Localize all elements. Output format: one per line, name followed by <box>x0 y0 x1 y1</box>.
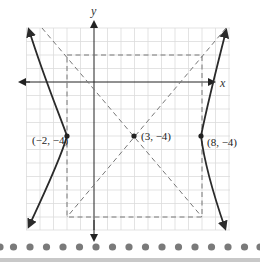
vertex-right-label: (8, −4) <box>207 136 237 149</box>
x-axis-label: x <box>219 76 226 90</box>
center-point <box>131 133 136 138</box>
hyperbola-left-branch <box>29 30 67 136</box>
grid <box>26 28 230 230</box>
dotted-divider <box>0 243 260 250</box>
vertex-left-label: (−2, −4) <box>32 134 69 147</box>
y-axis-label: y <box>90 4 97 18</box>
hyperbola-figure: x y (−2, −4) (3, −4) (8, −4) <box>0 0 260 262</box>
bottom-bar <box>0 258 260 262</box>
vertex-right-point <box>198 133 203 138</box>
center-label: (3, −4) <box>141 130 171 143</box>
